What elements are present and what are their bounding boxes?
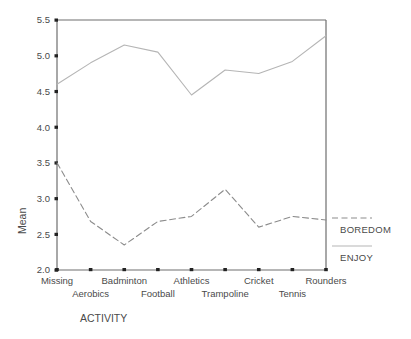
y-tick-mark — [55, 19, 59, 22]
line-chart: 5.55.04.54.03.53.02.52.0 MissingAerobics… — [0, 0, 411, 339]
y-tick-label: 4.5 — [37, 86, 50, 97]
x-category-label: Aerobics — [72, 288, 109, 299]
plot-frame — [57, 20, 326, 270]
y-tick-label: 3.5 — [37, 157, 50, 168]
x-category-label: Rounders — [305, 275, 346, 286]
x-tick-mark — [223, 268, 227, 271]
y-axis-title: Mean — [16, 208, 28, 234]
y-tick-mark — [55, 126, 59, 129]
legend-label-enjoy: ENJOY — [340, 252, 374, 263]
y-tick-mark — [55, 54, 59, 57]
x-category-label: Cricket — [244, 275, 274, 286]
x-axis-title: ACTIVITY — [80, 312, 127, 324]
x-tick-mark — [324, 268, 328, 271]
x-category-label: Trampoline — [202, 288, 249, 299]
legend-label-boredom: BOREDOM — [340, 224, 391, 235]
series-line-enjoy — [57, 36, 326, 95]
x-tick-mark — [156, 268, 160, 271]
x-category-label: Missing — [41, 275, 73, 286]
data-series-group — [57, 36, 326, 245]
y-tick-label: 2.5 — [37, 229, 50, 240]
x-tick-mark — [190, 268, 194, 271]
y-tick-label: 2.0 — [37, 264, 50, 275]
y-tick-label: 5.0 — [37, 50, 50, 61]
y-tick-mark — [55, 233, 59, 236]
y-tick-mark — [55, 90, 59, 93]
x-category-label: Athletics — [174, 275, 210, 286]
y-axis: 5.55.04.54.03.53.02.52.0 — [37, 14, 58, 275]
y-tick-label: 5.5 — [37, 14, 50, 25]
x-tick-mark — [122, 268, 126, 271]
y-tick-label: 4.0 — [37, 122, 50, 133]
x-tick-mark — [89, 268, 93, 271]
x-category-label: Badminton — [102, 275, 147, 286]
category-labels: MissingAerobicsBadmintonFootballAthletic… — [41, 275, 347, 299]
y-tick-mark — [55, 197, 59, 200]
x-tick-mark — [257, 268, 261, 271]
chart-canvas: 5.55.04.54.03.53.02.52.0 MissingAerobics… — [0, 0, 411, 339]
x-tick-mark — [291, 268, 295, 271]
y-tick-label: 3.0 — [37, 193, 50, 204]
x-category-label: Football — [141, 288, 175, 299]
x-tick-mark — [55, 268, 59, 271]
chart-legend: BOREDOMENJOY — [332, 218, 391, 263]
x-category-label: Tennis — [279, 288, 307, 299]
series-line-boredom — [57, 163, 326, 245]
